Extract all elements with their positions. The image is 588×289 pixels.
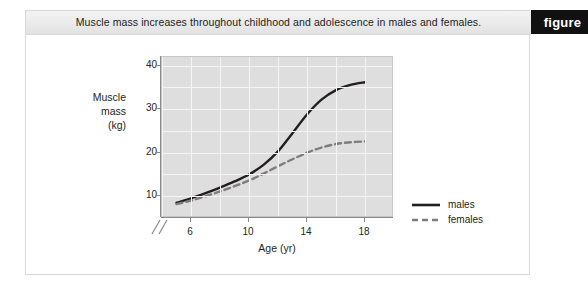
y-axis-title-line-3: (kg) bbox=[54, 118, 126, 132]
y-axis-ticks: 10203040 bbox=[121, 35, 157, 235]
figure-card: Muscle mass increases throughout childho… bbox=[25, 10, 530, 275]
figure-tab: figure bbox=[531, 10, 588, 34]
chart-legend: malesfemales bbox=[411, 197, 521, 227]
figure-title: Muscle mass increases throughout childho… bbox=[76, 17, 481, 28]
gridline-horizontal bbox=[162, 87, 392, 88]
gridline-vertical bbox=[307, 57, 308, 216]
gridline-vertical bbox=[278, 57, 279, 216]
chart-plot-region: Muscle mass (kg) 10203040 6101418 Age (y… bbox=[26, 35, 531, 275]
legend-item-males: males bbox=[411, 197, 521, 212]
figure-tab-label: figure bbox=[538, 16, 581, 29]
figure-title-bar: Muscle mass increases throughout childho… bbox=[26, 11, 531, 35]
x-tick-label: 14 bbox=[300, 227, 311, 237]
gridline-vertical bbox=[162, 57, 163, 216]
x-tick-mark bbox=[364, 217, 365, 222]
gridline-horizontal bbox=[162, 174, 392, 175]
gridline-vertical bbox=[191, 57, 192, 216]
gridline-vertical bbox=[220, 57, 221, 216]
y-axis-title-line-1: Muscle bbox=[54, 90, 126, 104]
x-tick-mark bbox=[248, 217, 249, 222]
legend-swatch-solid bbox=[411, 200, 441, 210]
gridline-vertical bbox=[249, 57, 250, 216]
x-tick-mark bbox=[190, 217, 191, 222]
x-axis-title: Age (yr) bbox=[161, 243, 393, 254]
y-axis-title: Muscle mass (kg) bbox=[54, 90, 126, 132]
gridline-vertical bbox=[336, 57, 337, 216]
gridline-horizontal bbox=[162, 109, 392, 110]
gridline-horizontal bbox=[162, 131, 392, 132]
legend-item-females: females bbox=[411, 212, 521, 227]
gridline-horizontal bbox=[162, 196, 392, 197]
x-tick-label: 10 bbox=[242, 227, 253, 237]
legend-swatch-dashed bbox=[411, 215, 441, 225]
y-axis-title-line-2: mass bbox=[54, 104, 126, 118]
gridline-vertical bbox=[365, 57, 366, 216]
plot-area bbox=[161, 56, 393, 217]
gridline-horizontal bbox=[162, 153, 392, 154]
gridline-horizontal bbox=[162, 66, 392, 67]
x-tick-label: 18 bbox=[358, 227, 369, 237]
x-tick-mark bbox=[306, 217, 307, 222]
legend-label: males bbox=[448, 200, 475, 210]
legend-label: females bbox=[448, 215, 483, 225]
x-tick-label: 6 bbox=[187, 227, 193, 237]
